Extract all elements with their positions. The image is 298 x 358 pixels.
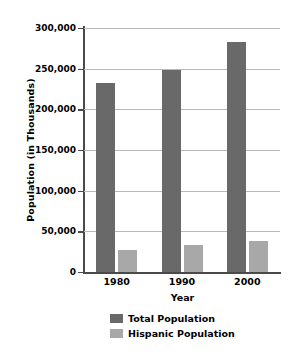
x-axis-tick-labels: 198019902000	[84, 276, 281, 290]
bar-1990-hispanic	[184, 245, 203, 272]
x-axis-tick-label: 2000	[217, 276, 277, 288]
y-axis-tick-label: 250,000	[14, 64, 76, 74]
legend-label: Total Population	[128, 313, 215, 324]
y-axis-tick-label: 50,000	[14, 226, 76, 236]
y-axis-tick-mark	[78, 272, 84, 273]
y-axis-tick-labels: 050,000100,000150,000200,000250,000300,0…	[12, 0, 76, 358]
legend-swatch-icon	[110, 329, 123, 338]
y-axis-tick-mark	[78, 191, 84, 192]
y-axis-tick-label: 150,000	[14, 145, 76, 155]
y-axis-tick-label: 200,000	[14, 104, 76, 114]
bar-1980-total	[96, 83, 115, 272]
population-bar-chart: Population (in Thousands) 050,000100,000…	[0, 0, 298, 358]
x-axis-tick-label: 1980	[87, 276, 147, 288]
y-axis-tick-mark	[78, 28, 84, 29]
plot-area	[84, 28, 280, 272]
chart-legend: Total PopulationHispanic Population	[0, 311, 298, 341]
legend-item-total-population: Total Population	[0, 311, 298, 326]
gridline	[84, 28, 280, 29]
gridline	[84, 69, 280, 70]
x-axis-title: Year	[84, 292, 281, 304]
bar-2000-total	[227, 42, 246, 272]
x-axis-line	[84, 272, 281, 274]
y-axis-tick-label: 100,000	[14, 186, 76, 196]
legend-label: Hispanic Population	[128, 328, 235, 339]
y-axis-tick-label: 300,000	[14, 23, 76, 33]
y-axis-tick-label: 0	[14, 267, 76, 277]
bar-2000-hispanic	[249, 241, 268, 272]
legend-swatch-icon	[110, 314, 123, 323]
y-axis-tick-mark	[78, 231, 84, 232]
y-axis-tick-mark	[78, 109, 84, 110]
legend-item-hispanic-population: Hispanic Population	[0, 326, 298, 341]
y-axis-tick-mark	[78, 69, 84, 70]
bar-1980-hispanic	[118, 250, 137, 272]
bar-1990-total	[162, 70, 181, 272]
x-axis-tick-label: 1990	[152, 276, 212, 288]
y-axis-tick-mark	[78, 150, 84, 151]
